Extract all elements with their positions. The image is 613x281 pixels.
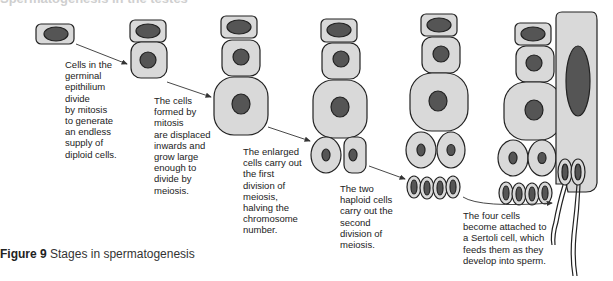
label-second-meiosis: The two haploid cells carry out the seco… [340,183,393,250]
stage-6-cells [498,23,562,205]
figure-caption: Figure 9 Stages in spermatogenesis [0,247,195,261]
sertoli-cell [556,12,597,192]
label-first-meiosis: The enlarged cells carry out the first d… [243,146,302,236]
stage-5-cells [406,14,468,199]
stage-3-cells [214,16,268,135]
label-displaced-cells: The cells formed by mitosis are displace… [154,95,211,196]
stage-4-cells [311,19,367,173]
figure-number: Figure 9 [0,247,47,261]
sperm-tails [551,185,580,276]
label-mitosis: Cells in the germinal epithilium divide … [65,59,117,160]
label-sertoli: The four cells become attached to a Sert… [463,210,546,266]
stage-1-cell [36,24,74,44]
figure-caption-text: Stages in spermatogenesis [50,247,195,261]
stage-2-cells [130,20,167,78]
